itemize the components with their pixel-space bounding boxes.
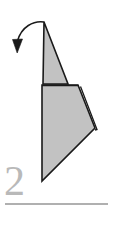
- fold-direction-arrow: [18, 22, 45, 41]
- lower-quadrilateral-body: [42, 85, 95, 181]
- step-number-label: 2: [4, 160, 25, 202]
- bottom-divider-rule: [5, 203, 108, 205]
- upper-triangle-flap: [43, 22, 68, 84]
- fold-arrow-head-icon: [13, 39, 23, 53]
